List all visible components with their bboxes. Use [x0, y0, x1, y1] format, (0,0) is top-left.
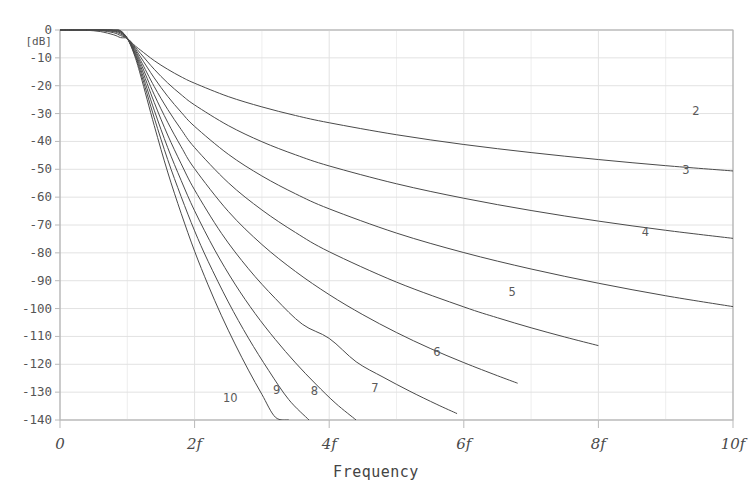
- y-tick-label: -80: [0, 245, 52, 260]
- y-tick-label: -20: [0, 78, 52, 93]
- y-tick-label: -30: [0, 106, 52, 121]
- y-tick-label: -90: [0, 273, 52, 288]
- y-tick-label: -140: [0, 412, 52, 427]
- curve-label-5: 5: [501, 285, 523, 299]
- y-tick-label: -130: [0, 384, 52, 399]
- curve-label-10: 10: [219, 391, 241, 405]
- x-tick-label: 6f: [434, 435, 494, 453]
- filter-response-plot: [0, 0, 752, 488]
- y-tick-label: -100: [0, 301, 52, 316]
- y-tick-label: -60: [0, 189, 52, 204]
- curve-label-4: 4: [635, 225, 657, 239]
- x-tick-label: 8f: [568, 435, 628, 453]
- curve-label-6: 6: [426, 345, 448, 359]
- chart-stage: 0-10-20-30-40-50-60-70-80-90-100-110-120…: [0, 0, 752, 488]
- curve-label-7: 7: [364, 381, 386, 395]
- y-tick-label: -50: [0, 161, 52, 176]
- curve-label-2: 2: [685, 104, 707, 118]
- y-tick-label: -120: [0, 356, 52, 371]
- curve-label-9: 9: [266, 383, 288, 397]
- x-tick-label: 0: [30, 435, 90, 453]
- y-tick-label: -110: [0, 328, 52, 343]
- response-curve-order-6: [60, 30, 518, 383]
- x-tick-label: 4f: [299, 435, 359, 453]
- x-tick-label: 2f: [165, 435, 225, 453]
- curve-label-3: 3: [675, 163, 697, 177]
- curve-label-8: 8: [303, 384, 325, 398]
- y-tick-label: -40: [0, 133, 52, 148]
- response-curve-order-7: [60, 30, 457, 414]
- y-tick-label: -70: [0, 217, 52, 232]
- x-axis-title: Frequency: [0, 463, 752, 481]
- y-axis-unit-label: [dB]: [0, 35, 52, 48]
- x-tick-label: 10f: [703, 435, 752, 453]
- y-tick-label: -10: [0, 50, 52, 65]
